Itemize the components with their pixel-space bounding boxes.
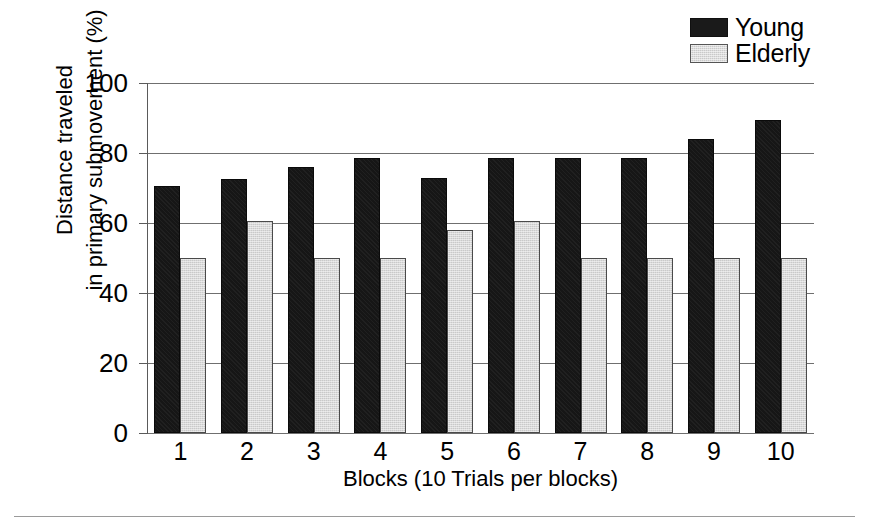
legend-item-young[interactable]: Young	[690, 14, 860, 40]
y-tick-mark	[139, 433, 148, 434]
chart-legend: Young Elderly	[690, 14, 860, 66]
x-tick-label: 5	[417, 437, 477, 465]
x-tick-label: 1	[150, 437, 210, 465]
bar-elderly-block-6[interactable]	[514, 221, 540, 433]
bar-young-block-4[interactable]	[354, 158, 380, 433]
y-tick-label: 0	[8, 420, 128, 446]
x-tick-label: 3	[284, 437, 344, 465]
gridline	[147, 83, 814, 84]
y-tick-label: 20	[8, 350, 128, 376]
x-tick-label: 9	[684, 437, 744, 465]
bar-young-block-9[interactable]	[688, 139, 714, 433]
legend-item-elderly[interactable]: Elderly	[690, 40, 860, 66]
gridline	[147, 153, 814, 154]
bar-elderly-block-9[interactable]	[714, 258, 740, 433]
x-axis-title: Blocks (10 Trials per blocks)	[147, 466, 814, 492]
bar-elderly-block-5[interactable]	[447, 230, 473, 433]
bar-elderly-block-10[interactable]	[781, 258, 807, 433]
bar-elderly-block-2[interactable]	[247, 221, 273, 433]
x-tick-label: 7	[551, 437, 611, 465]
bar-elderly-block-4[interactable]	[380, 258, 406, 433]
plot-area	[147, 83, 814, 433]
x-tick-label: 10	[751, 437, 811, 465]
y-tick-mark	[139, 83, 148, 84]
x-tick-label: 6	[484, 437, 544, 465]
y-tick-label: 40	[8, 280, 128, 306]
bar-young-block-2[interactable]	[221, 179, 247, 433]
bar-elderly-block-3[interactable]	[314, 258, 340, 433]
bar-elderly-block-8[interactable]	[647, 258, 673, 433]
bar-young-block-10[interactable]	[755, 120, 781, 433]
y-tick-mark	[139, 293, 148, 294]
bar-young-block-1[interactable]	[154, 186, 180, 433]
x-tick-label: 4	[350, 437, 410, 465]
y-tick-mark	[139, 153, 148, 154]
bar-young-block-6[interactable]	[488, 158, 514, 433]
legend-swatch-young-icon	[690, 18, 728, 37]
x-tick-label: 2	[217, 437, 277, 465]
bar-young-block-8[interactable]	[621, 158, 647, 433]
y-tick-label: 80	[8, 140, 128, 166]
bar-elderly-block-7[interactable]	[581, 258, 607, 433]
bar-elderly-block-1[interactable]	[180, 258, 206, 433]
gridline	[147, 433, 814, 434]
bottom-divider	[14, 516, 855, 517]
x-tick-label: 8	[617, 437, 677, 465]
legend-swatch-elderly-icon	[690, 44, 728, 63]
bar-young-block-5[interactable]	[421, 178, 447, 434]
bar-chart-figure: Young Elderly Distance traveled in prima…	[0, 0, 869, 527]
legend-label-young: Young	[735, 14, 804, 40]
y-tick-label: 100	[8, 70, 128, 96]
bar-young-block-7[interactable]	[555, 158, 581, 433]
y-tick-mark	[139, 363, 148, 364]
y-tick-mark	[139, 223, 148, 224]
y-tick-label: 60	[8, 210, 128, 236]
legend-label-elderly: Elderly	[735, 40, 810, 66]
bar-young-block-3[interactable]	[288, 167, 314, 433]
